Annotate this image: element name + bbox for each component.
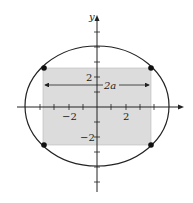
- corner-point-bottom-left: [41, 142, 47, 148]
- ellipse-diagram: y 2 −2 −2 2 2a: [0, 0, 193, 203]
- y-tick-label-neg2: −2: [80, 132, 95, 143]
- y-axis-arrow-icon: [95, 15, 100, 21]
- y-axis-label: y: [88, 11, 95, 22]
- x-axis-arrow-icon: [178, 105, 184, 110]
- width-label-2a: 2a: [103, 80, 116, 91]
- corner-point-top-right: [148, 65, 154, 71]
- x-tick-label-2: 2: [123, 111, 129, 122]
- corner-point-top-left: [41, 65, 47, 71]
- corner-point-bottom-right: [148, 142, 154, 148]
- y-tick-label-2: 2: [86, 72, 92, 83]
- x-tick-label-neg2: −2: [62, 111, 77, 122]
